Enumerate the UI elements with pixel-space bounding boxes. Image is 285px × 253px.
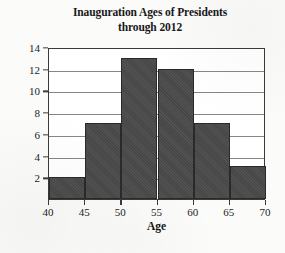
histogram-bar [158,69,194,199]
histogram-bar [230,166,266,199]
x-axis-tick-mark [265,200,266,205]
y-axis-tick-label: 6 [35,129,41,141]
chart-title-line-2: through 2012 [30,20,270,35]
x-axis-tick-label: 40 [43,206,54,218]
chart-title: Inauguration Ages of Presidents through … [30,5,270,35]
y-axis-tick-label: 12 [29,64,40,76]
x-axis-tick-mark [84,200,85,205]
y-axis-tick-label: 8 [35,107,41,119]
x-axis-tick-mark [157,200,158,205]
x-axis-tick-label: 60 [187,206,198,218]
x-axis-tick-mark [120,200,121,205]
histogram-bar [121,58,157,199]
plot-area [48,48,265,200]
x-axis-tick-label: 70 [260,206,271,218]
x-axis-tick-mark [229,200,230,205]
y-axis-tick-label: 2 [35,172,41,184]
x-axis-tick-mark [48,200,49,205]
x-axis-tick-label: 45 [79,206,90,218]
histogram-bar [49,177,85,199]
y-axis-tick-label: 14 [29,42,40,54]
x-axis-tick-mark [193,200,194,205]
x-axis-label: Age [48,220,265,232]
x-axis-tick-label: 55 [151,206,162,218]
x-axis-tick-group: 40455055606570 [48,200,265,220]
y-axis-tick-label: 10 [29,85,40,97]
histogram-bar [194,123,230,199]
chart-title-line-1: Inauguration Ages of Presidents [30,5,270,20]
x-axis-tick-label: 50 [115,206,126,218]
histogram-figure: Inauguration Ages of Presidents through … [0,0,285,253]
y-axis-tick-group: 2468101214 [0,48,48,200]
x-axis-tick-label: 65 [223,206,234,218]
histogram-bar [85,123,121,199]
y-axis-tick-label: 4 [35,151,41,163]
